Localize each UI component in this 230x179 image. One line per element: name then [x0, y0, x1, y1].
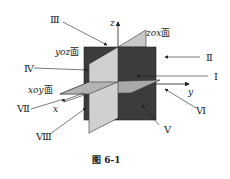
- zox-plane-label: zox面: [145, 28, 170, 38]
- octant-4-label: Ⅳ: [24, 63, 35, 74]
- z-axis-label: z: [109, 18, 115, 28]
- figure-caption: 图 6-1: [92, 155, 120, 165]
- octant-diagram: z y x yoz面 zox面 xoy面 Ⅲ Ⅳ Ⅱ Ⅰ Ⅵ Ⅴ Ⅶ Ⅷ 图 6…: [0, 0, 230, 179]
- octant-1-label: Ⅰ: [214, 71, 218, 82]
- y-axis-label: y: [187, 87, 194, 97]
- yoz-plane-label: yoz面: [54, 47, 79, 57]
- octant-8-label: Ⅷ: [35, 131, 52, 142]
- octant-2-label: Ⅱ: [206, 52, 213, 63]
- octant-5-label: Ⅴ: [163, 124, 172, 135]
- xoy-plane-label: xoy面: [28, 85, 53, 95]
- octant-6-label: Ⅵ: [195, 105, 206, 116]
- octant-3-label: Ⅲ: [50, 14, 60, 25]
- x-axis-label: x: [53, 104, 58, 114]
- octant-7-label: Ⅶ: [16, 103, 30, 114]
- zox-plane-upper-back: [118, 30, 146, 47]
